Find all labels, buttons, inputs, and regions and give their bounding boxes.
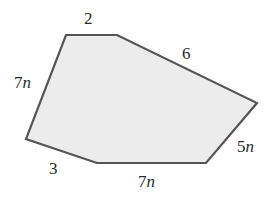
- hexagon-shape: [26, 35, 257, 163]
- side-label-upper-right: 6: [182, 44, 191, 63]
- side-label-right: 5n: [237, 137, 254, 156]
- side-label-bottom: 7n: [138, 172, 155, 191]
- hexagon-diagram: 2 6 5n 7n 3 7n: [0, 0, 279, 197]
- side-label-top: 2: [84, 9, 93, 28]
- side-label-bottom-left: 3: [49, 159, 58, 178]
- side-label-left: 7n: [14, 73, 31, 92]
